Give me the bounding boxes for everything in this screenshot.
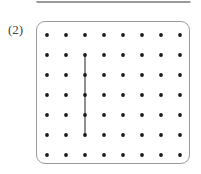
grid-dot bbox=[140, 73, 144, 77]
grid-dot bbox=[45, 33, 49, 37]
grid-dot bbox=[83, 53, 87, 57]
grid-dot bbox=[178, 53, 182, 57]
grid-dot bbox=[83, 73, 87, 77]
grid-dot bbox=[121, 73, 125, 77]
grid-dot bbox=[102, 113, 106, 117]
grid-dot bbox=[159, 113, 163, 117]
grid-dot bbox=[83, 93, 87, 97]
grid-dot bbox=[121, 93, 125, 97]
grid-dot bbox=[45, 113, 49, 117]
grid-dot bbox=[159, 153, 163, 157]
grid-dot bbox=[140, 53, 144, 57]
grid-dot bbox=[83, 33, 87, 37]
grid-dot bbox=[159, 73, 163, 77]
grid-dot bbox=[102, 93, 106, 97]
grid-dot bbox=[45, 133, 49, 137]
grid-dot bbox=[140, 113, 144, 117]
figure-container: (2) bbox=[0, 0, 201, 174]
grid-dot bbox=[64, 33, 68, 37]
grid-dot bbox=[83, 133, 87, 137]
grid-dot bbox=[178, 33, 182, 37]
grid-dot bbox=[140, 153, 144, 157]
grid-dot bbox=[178, 153, 182, 157]
grid-dot bbox=[178, 93, 182, 97]
grid-dot bbox=[121, 133, 125, 137]
grid-dot bbox=[140, 133, 144, 137]
grid-dot bbox=[83, 153, 87, 157]
dot-grid-svg bbox=[37, 22, 191, 165]
grid-dot bbox=[159, 53, 163, 57]
grid-dot bbox=[121, 53, 125, 57]
grid-dot bbox=[45, 93, 49, 97]
grid-dot bbox=[159, 133, 163, 137]
grid-dot bbox=[45, 73, 49, 77]
grid-dot bbox=[178, 73, 182, 77]
grid-dot bbox=[140, 93, 144, 97]
grid-dot bbox=[64, 73, 68, 77]
grid-dot bbox=[83, 113, 87, 117]
grid-dot bbox=[121, 33, 125, 37]
grid-dot bbox=[159, 93, 163, 97]
grid-dot bbox=[121, 113, 125, 117]
previous-figure-bottom-edge bbox=[36, 1, 191, 3]
grid-dot bbox=[178, 133, 182, 137]
grid-dot bbox=[140, 33, 144, 37]
grid-dot bbox=[102, 33, 106, 37]
grid-dot bbox=[102, 153, 106, 157]
grid-dot bbox=[102, 133, 106, 137]
grid-dot bbox=[64, 153, 68, 157]
grid-dot bbox=[64, 53, 68, 57]
grid-dot bbox=[64, 93, 68, 97]
grid-dot bbox=[64, 113, 68, 117]
grid-dot bbox=[102, 73, 106, 77]
grid-dot bbox=[121, 153, 125, 157]
figure-item-label: (2) bbox=[8, 22, 34, 38]
grid-dot bbox=[102, 53, 106, 57]
grid-dot bbox=[45, 53, 49, 57]
grid-dot bbox=[178, 113, 182, 117]
dot-grid-panel bbox=[36, 21, 190, 164]
grid-dot bbox=[64, 133, 68, 137]
dot-layer bbox=[45, 33, 182, 157]
grid-dot bbox=[45, 153, 49, 157]
grid-dot bbox=[159, 33, 163, 37]
